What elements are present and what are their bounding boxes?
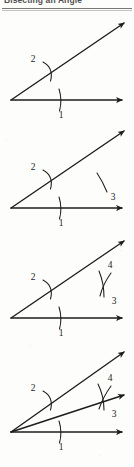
step-4-panel xyxy=(11,352,124,443)
step-4-label-1: 1 xyxy=(59,442,64,452)
step-4-label-4: 4 xyxy=(108,373,113,383)
interior-arc-from-lower-point xyxy=(97,173,107,192)
bisector-ray xyxy=(11,395,124,432)
step-1-label-2: 2 xyxy=(31,54,36,64)
interior-arc-from-upper-point xyxy=(98,384,104,410)
step-2-label-2: 2 xyxy=(31,162,36,172)
figure-page: Bisecting an Angle xyxy=(0,0,134,467)
step-3-label-3: 3 xyxy=(112,296,117,306)
bisecting-angle-figure: 2 1 2 1 3 2 1 4 3 2 1 4 3 xyxy=(0,0,134,467)
step-2-panel xyxy=(11,131,124,219)
step-2-label-3: 3 xyxy=(111,192,116,202)
step-3-panel xyxy=(11,241,124,329)
step-1-label-1: 1 xyxy=(59,110,64,120)
step-4-label-2: 2 xyxy=(31,383,36,393)
upper-ray xyxy=(11,23,124,100)
upper-ray xyxy=(11,131,124,208)
step-3-label-1: 1 xyxy=(59,328,64,338)
interior-arc-from-upper-point xyxy=(99,271,104,297)
step-1-panel xyxy=(11,23,124,111)
interior-arc-from-lower-point xyxy=(100,273,111,296)
step-3-label-2: 2 xyxy=(31,272,36,282)
step-3-label-4: 4 xyxy=(108,260,113,270)
step-2-label-1: 1 xyxy=(59,218,64,228)
step-4-label-3: 3 xyxy=(112,409,117,419)
